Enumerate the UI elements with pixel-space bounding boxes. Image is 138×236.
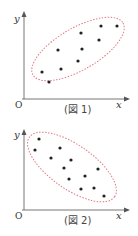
y-axis-arrow-icon bbox=[22, 11, 27, 17]
origin-label: O bbox=[15, 100, 22, 110]
figure-caption: (図 2) bbox=[64, 215, 91, 226]
cluster-ellipse bbox=[17, 119, 127, 215]
scatter-figure-2: y x O (図 2) bbox=[0, 118, 138, 236]
origin-label: O bbox=[15, 211, 22, 221]
cluster-ellipse bbox=[22, 5, 133, 93]
y-axis-arrow-icon bbox=[22, 129, 27, 135]
x-axis-label: x bbox=[116, 210, 122, 221]
y-axis-label: y bbox=[13, 129, 20, 140]
figure-caption: (図 1) bbox=[64, 104, 91, 115]
y-axis-label: y bbox=[13, 13, 20, 24]
x-axis-label: x bbox=[116, 99, 122, 110]
x-axis-arrow-icon bbox=[124, 208, 130, 213]
x-axis-arrow-icon bbox=[124, 97, 130, 102]
data-points bbox=[33, 137, 105, 197]
scatter-figure-1: y x O (図 1) bbox=[0, 0, 138, 118]
